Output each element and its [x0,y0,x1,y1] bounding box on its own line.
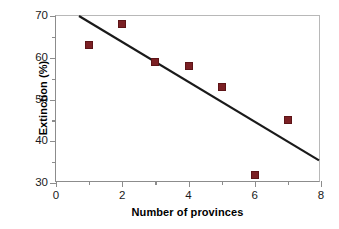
data-point-marker [185,62,193,70]
data-point-marker [251,171,259,179]
x-tick-minor [222,181,223,185]
plot-area: 304050607002468 [55,15,320,182]
trend-line-layer [56,16,319,181]
trend-line [79,16,319,160]
y-tick-major [50,100,56,101]
data-point-marker [218,83,226,91]
x-tick-label: 2 [119,190,125,202]
y-tick-minor [52,120,56,121]
y-tick-major [50,58,56,59]
y-tick-major [50,141,56,142]
x-tick-minor [155,181,156,185]
y-tick-label: 30 [35,177,48,189]
x-tick-label: 8 [318,190,324,202]
y-tick-major [50,16,56,17]
data-point-marker [118,20,126,28]
x-tick-major [56,181,57,187]
x-tick-label: 0 [53,190,59,202]
x-tick-major [321,181,322,187]
x-tick-label: 6 [252,190,258,202]
data-point-marker [85,41,93,49]
x-tick-major [189,181,190,187]
y-tick-minor [52,37,56,38]
data-point-marker [151,58,159,66]
x-tick-minor [89,181,90,185]
y-tick-minor [52,79,56,80]
x-tick-minor [288,181,289,185]
data-point-marker [284,116,292,124]
y-axis-title: Extinction (%) [37,61,49,136]
x-axis-title: Number of provinces [55,206,320,218]
x-tick-major [255,181,256,187]
chart-figure: 304050607002468 Number of provinces Exti… [0,0,339,229]
y-tick-label: 40 [35,136,48,148]
x-tick-label: 4 [185,190,191,202]
y-tick-label: 70 [35,10,48,22]
x-tick-major [122,181,123,187]
y-tick-minor [52,162,56,163]
